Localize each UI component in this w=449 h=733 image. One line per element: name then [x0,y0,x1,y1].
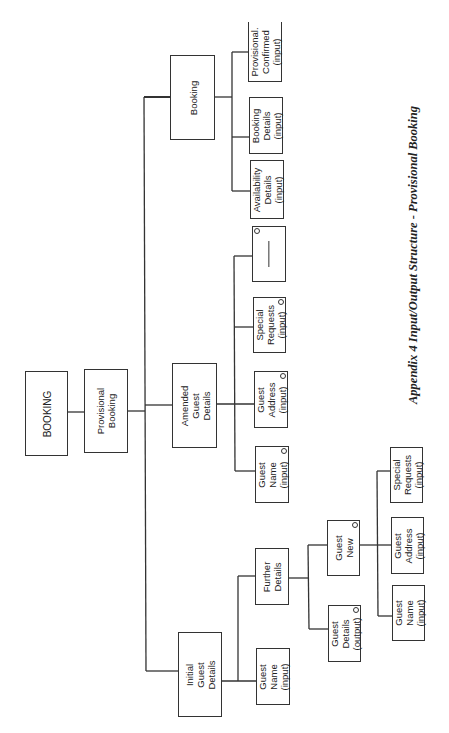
node-label: BOOKING [41,390,52,437]
node-label: Provisional Booking [95,388,117,434]
node-booking: Booking [170,55,215,140]
node-label: Guest New [333,535,355,560]
node-label: Booking Details (input) [250,108,283,142]
node-label: Guest Details (output) [328,617,361,650]
node-new-special-requests: Special Requests (input) [390,447,423,503]
node-label: Further Details [261,561,283,592]
node-guest-new: Guest New [327,520,360,576]
node-new-guest-address: Guest Address (input) [391,517,424,574]
node-label: Availability Details (input) [251,167,284,212]
node-amended-guest-address: Guest Address (input) [254,371,288,428]
node-label: Guest Name (input) [256,461,289,488]
node-label: Guest Name (input) [257,663,290,690]
node-provisional-booking: Provisional Booking [84,369,128,453]
diagram-canvas: BOOKING Provisional Booking Booking Amen… [0,0,449,733]
node-amended-guest-name: Guest Name (input) [255,446,289,503]
node-label: Special Requests (input) [390,455,423,495]
selection-marker-icon [254,228,260,234]
node-label: Booking [187,80,198,114]
selection-marker-icon [281,448,287,454]
node-availability-details: Availability Details (input) [250,160,284,219]
node-label: Guest Address (input) [391,528,424,563]
selection-marker-icon [353,607,359,613]
node-label: Provisional. Confirmed (input) [249,27,282,76]
selection-marker-icon [280,373,286,379]
node-booking-details: Booking Details (input) [249,97,283,154]
node-null-selection [252,226,286,282]
node-label: Special Requests (input) [253,305,286,345]
node-label: Guest Name (input) [392,600,425,627]
node-amended-special-requests: Special Requests (input) [253,297,286,353]
node-new-guest-name: Guest Name (input) [392,585,425,641]
node-further-details: Further Details [255,548,289,605]
node-initial-guest-details: Initial Guest Details [178,632,222,717]
figure-caption: Appendix 4 Input/Output Structure - Prov… [406,106,421,404]
node-guest-details-output: Guest Details (output) [328,605,361,662]
node-label: Amended Guest Details [178,385,211,426]
node-amended-guest-details: Amended Guest Details [172,363,217,448]
node-provisional-confirmed: Provisional. Confirmed (input) [248,22,282,82]
node-booking-root: BOOKING [25,371,68,456]
connector-lines [0,0,449,733]
node-label: Initial Guest Details [184,660,217,689]
selection-marker-icon [352,522,358,528]
node-initial-guest-name: Guest Name (input) [256,648,290,705]
null-dash-icon [268,241,269,267]
node-label: Guest Address (input) [255,382,288,417]
